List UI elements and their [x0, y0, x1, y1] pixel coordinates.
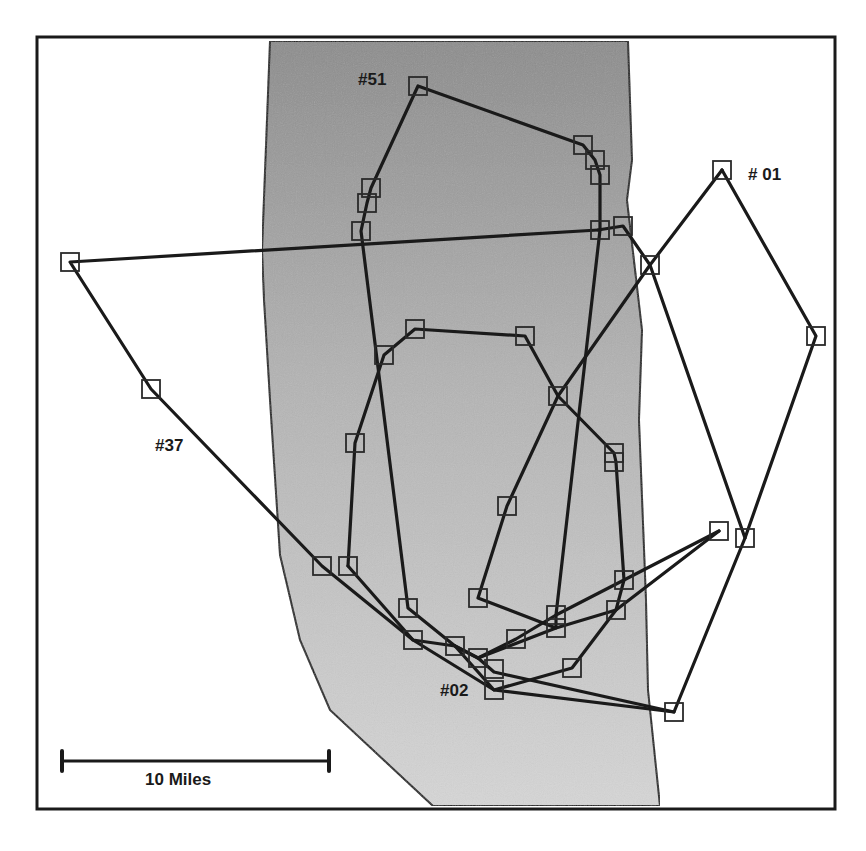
label-track-37: #37	[155, 436, 183, 456]
label-track-02: #02	[440, 681, 468, 701]
map-canvas	[0, 0, 866, 851]
label-track-51: #51	[358, 70, 386, 90]
scale-bar-label: 10 Miles	[145, 770, 211, 790]
scale-bar	[62, 751, 329, 771]
label-track-01: # 01	[748, 165, 781, 185]
